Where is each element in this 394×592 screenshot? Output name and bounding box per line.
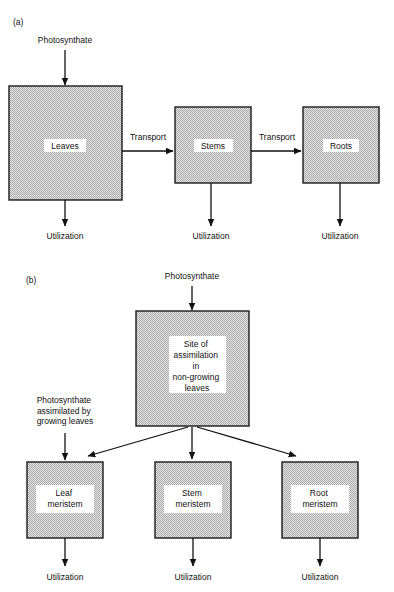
box-site-of-assimilation-label-line-5: leaves	[185, 383, 210, 393]
output-utilization-roots: Utilization	[322, 183, 359, 241]
output-utilization-leaf-meristem: Utilization	[47, 538, 84, 582]
box-stem-meristem-label-line-1: Stem	[182, 488, 202, 498]
box-leaves-label: Leaves	[51, 141, 78, 151]
box-site-of-assimilation-label-line-2: assimilation	[174, 350, 219, 360]
output-utilization-stem-meristem: Utilization	[175, 538, 212, 582]
panel-b-label: (b)	[26, 275, 37, 285]
figure-root: (a) Photosynthate Leaves Transport	[0, 0, 394, 592]
box-root-meristem[interactable]: Root meristem	[282, 462, 358, 538]
input-growing-leaves-line-2: assimilated by	[37, 406, 92, 416]
panel-b: (b) Photosynthate Site of assimilation i…	[26, 271, 358, 582]
box-stem-meristem-label-line-2: meristem	[176, 499, 211, 509]
transfer-assimilation-root	[197, 427, 296, 456]
output-utilization-stem-meristem-label: Utilization	[175, 572, 212, 582]
box-root-meristem-label-line-2: meristem	[303, 499, 338, 509]
output-utilization-roots-label: Utilization	[322, 231, 359, 241]
box-stems[interactable]: Stems	[175, 107, 251, 183]
input-photosynthate-growing-leaves: Photosynthate assimilated by growing lea…	[37, 395, 94, 460]
input-photosynthate-growing-leaves-label: Photosynthate assimilated by growing lea…	[37, 395, 94, 426]
transfer-assimilation-root-arrow	[197, 427, 296, 456]
output-utilization-root-meristem-label: Utilization	[302, 572, 339, 582]
input-growing-leaves-line-1: Photosynthate	[37, 395, 92, 405]
input-growing-leaves-line-3: growing leaves	[37, 416, 94, 426]
output-utilization-stems: Utilization	[193, 183, 230, 241]
transfer-leaves-stems-label: Transport	[130, 132, 167, 142]
transfer-stems-roots: Transport	[251, 132, 301, 151]
box-site-of-assimilation-label-line-1: Site of	[184, 339, 209, 349]
transfer-leaves-stems: Transport	[122, 132, 173, 151]
box-roots-label: Roots	[330, 141, 352, 151]
box-leaf-meristem[interactable]: Leaf meristem	[27, 462, 103, 538]
box-site-of-assimilation-label-line-4: non-growing	[172, 372, 219, 382]
transfer-assimilation-leaf-arrow	[88, 427, 188, 456]
box-site-of-assimilation-label-line-3: in	[193, 361, 200, 371]
box-leaf-meristem-label-line-2: meristem	[48, 499, 83, 509]
panel-a: (a) Photosynthate Leaves Transport	[9, 17, 379, 241]
input-photosynthate-b: Photosynthate	[165, 271, 220, 310]
output-utilization-stems-label: Utilization	[193, 231, 230, 241]
output-utilization-leaves: Utilization	[47, 200, 84, 241]
output-utilization-leaves-label: Utilization	[47, 231, 84, 241]
plant-assimilate-partitioning-diagram: (a) Photosynthate Leaves Transport	[0, 0, 394, 592]
input-photosynthate-a-label: Photosynthate	[38, 35, 93, 45]
box-stem-meristem[interactable]: Stem meristem	[155, 462, 231, 538]
panel-a-label: (a)	[13, 17, 24, 27]
output-utilization-leaf-meristem-label: Utilization	[47, 572, 84, 582]
output-utilization-root-meristem: Utilization	[302, 538, 339, 582]
box-roots[interactable]: Roots	[303, 107, 379, 183]
box-site-of-assimilation[interactable]: Site of assimilation in non-growing leav…	[136, 311, 249, 426]
input-photosynthate-a: Photosynthate	[38, 35, 93, 85]
box-stems-label: Stems	[201, 141, 225, 151]
box-leaf-meristem-label-line-1: Leaf	[56, 488, 73, 498]
box-leaves[interactable]: Leaves	[9, 86, 122, 200]
transfer-stems-roots-label: Transport	[259, 132, 296, 142]
transfer-assimilation-leaf	[88, 427, 188, 456]
box-root-meristem-label-line-1: Root	[310, 488, 329, 498]
input-photosynthate-b-label: Photosynthate	[165, 271, 220, 281]
